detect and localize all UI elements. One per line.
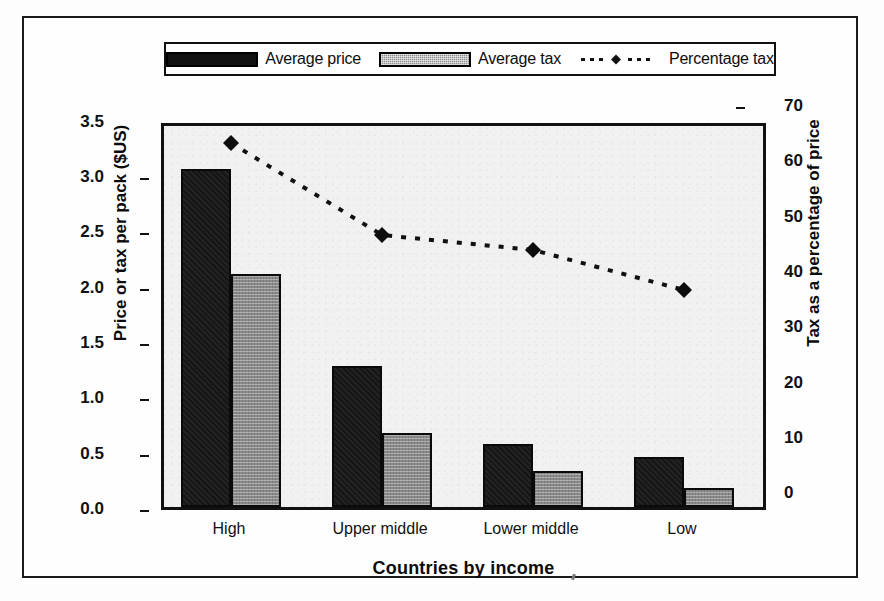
y-axis-left-tick-0-5: 0.5 — [44, 444, 104, 464]
y-axis-right-title: Tax as a percentage of price — [804, 68, 824, 398]
y-axis-left-tick-2-0: 2.0 — [44, 278, 104, 298]
figure-border: Average price Average tax — [22, 16, 858, 578]
y-axis-left-tick-1-0: 1.0 — [44, 388, 104, 408]
y-axis-left-tick-0-0: 0.0 — [44, 499, 104, 519]
bar-average-tax-high[interactable] — [231, 274, 281, 507]
legend-entry-average-price: Average price — [166, 50, 361, 68]
plot-area — [161, 123, 766, 510]
legend-label-average-tax: Average tax — [478, 50, 561, 68]
figure-canvas: Average price Average tax — [0, 0, 884, 601]
marker-percentage-tax-upper-middle — [374, 227, 390, 243]
legend-label-average-price: Average price — [265, 50, 361, 68]
legend-dotted-line-diamond-icon — [579, 52, 665, 66]
y-axis-left-tickmark-3-0 — [140, 178, 149, 180]
bar-average-price-upper-middle[interactable] — [332, 366, 382, 507]
y-axis-left-tick-2-5: 2.5 — [44, 222, 104, 242]
y-axis-right-tick-0: 0 — [784, 483, 828, 503]
y-axis-left-tickmark-2-0 — [140, 289, 149, 291]
legend-entry-percentage-tax: Percentage tax — [579, 50, 774, 68]
y-axis-left-tickmark-1-5 — [140, 344, 149, 346]
y-axis-left-tickmark-1-0 — [140, 399, 149, 401]
legend-swatch-average-price-icon — [166, 52, 258, 67]
chart-legend: Average price Average tax — [164, 42, 776, 76]
bar-average-tax-upper-middle[interactable] — [382, 433, 432, 507]
bar-average-price-low[interactable] — [634, 457, 684, 507]
y-axis-left-title: Price or tax per pack ($US) — [111, 68, 131, 398]
y-axis-left-tickmark-2-5 — [140, 233, 149, 235]
x-axis-tick-low: Low — [592, 520, 772, 538]
percentage-tax-markers — [223, 135, 692, 298]
legend-swatch-average-tax-icon — [379, 52, 471, 67]
bar-average-tax-low[interactable] — [684, 488, 734, 507]
y-axis-left-tick-3-0: 3.0 — [44, 167, 104, 187]
y-axis-right-tickmark-70 — [736, 107, 745, 109]
bar-average-price-lower-middle[interactable] — [483, 444, 533, 507]
y-axis-left-tick-3-5: 3.5 — [44, 112, 104, 132]
marker-percentage-tax-high — [223, 135, 239, 151]
y-axis-right-tick-10: 10 — [784, 428, 828, 448]
marker-percentage-tax-low — [676, 282, 692, 298]
legend-label-percentage-tax: Percentage tax — [669, 50, 774, 68]
y-axis-left-tick-1-5: 1.5 — [44, 333, 104, 353]
y-axis-left-tickmark-0-0 — [140, 510, 149, 512]
bar-average-price-high[interactable] — [181, 169, 231, 507]
marker-percentage-tax-lower-middle — [525, 242, 541, 258]
bar-average-tax-lower-middle[interactable] — [533, 471, 583, 507]
y-axis-left-tickmark-0-5 — [140, 455, 149, 457]
x-axis-title: Countries by income — [161, 558, 766, 579]
legend-entry-average-tax: Average tax — [379, 50, 561, 68]
